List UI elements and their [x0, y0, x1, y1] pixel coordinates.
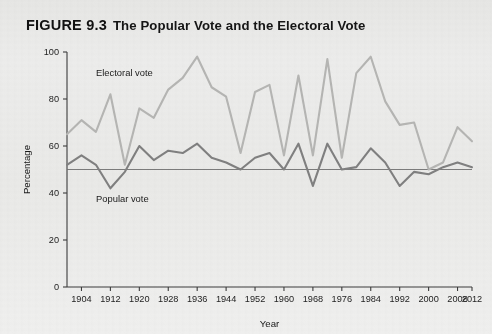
- x-tick-label: 1968: [303, 294, 323, 304]
- x-tick-label: 1984: [361, 294, 381, 304]
- x-tick-label: 1944: [216, 294, 236, 304]
- popular-vote-label: Popular vote: [96, 193, 149, 204]
- y-tick-label: 80: [49, 94, 59, 104]
- chart-plot: 0204060801001904191219201928193619441952…: [0, 0, 492, 334]
- x-tick-label: 2000: [418, 294, 438, 304]
- y-tick-label: 60: [49, 141, 59, 151]
- annotation-layer: Electoral votePopular vote: [96, 67, 153, 204]
- x-tick-label: 2012: [462, 294, 482, 304]
- y-tick-label: 100: [44, 47, 59, 57]
- x-tick-label: 1928: [158, 294, 178, 304]
- y-tick-label: 40: [49, 188, 59, 198]
- y-tick-label: 20: [49, 235, 59, 245]
- axis-layer: 0204060801001904191219201928193619441952…: [21, 47, 482, 329]
- x-tick-label: 1912: [100, 294, 120, 304]
- x-tick-label: 1992: [389, 294, 409, 304]
- x-tick-label: 1936: [187, 294, 207, 304]
- x-axis-title: Year: [260, 318, 280, 329]
- x-tick-label: 1920: [129, 294, 149, 304]
- x-tick-label: 1960: [274, 294, 294, 304]
- x-tick-label: 1904: [71, 294, 91, 304]
- electoral-vote-label: Electoral vote: [96, 67, 153, 78]
- x-tick-label: 1952: [245, 294, 265, 304]
- x-tick-label: 1976: [332, 294, 352, 304]
- y-axis-title: Percentage: [21, 145, 32, 194]
- figure-container: FIGURE 9.3 The Popular Vote and the Elec…: [0, 0, 492, 334]
- y-tick-label: 0: [54, 282, 59, 292]
